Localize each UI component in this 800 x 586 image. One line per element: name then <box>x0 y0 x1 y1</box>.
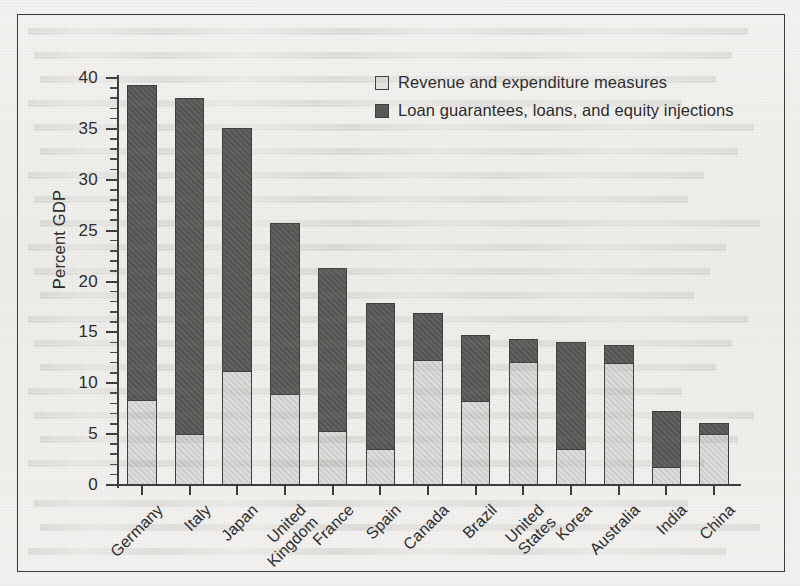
bar-china <box>699 78 729 485</box>
page-ghost-text-line <box>34 124 754 131</box>
y-axis-tick-major <box>106 179 117 181</box>
bar-segment-loan-guarantees <box>556 342 586 450</box>
page-ghost-text-line <box>28 316 748 323</box>
bar-segment-loan-guarantees <box>699 423 729 435</box>
x-axis-tick <box>332 486 334 495</box>
y-axis-tick-minor <box>110 403 117 405</box>
page-ghost-text-line <box>28 100 682 107</box>
page-ghost-text-line <box>40 76 716 83</box>
y-axis-tick-minor <box>110 443 117 445</box>
y-axis-tick-major <box>106 433 117 435</box>
page-ghost-text-line <box>28 172 704 179</box>
page-ghost-text-line <box>28 244 726 251</box>
page-ghost-text-line <box>28 28 748 35</box>
x-axis-tick <box>665 486 667 495</box>
y-axis-tick-minor <box>110 260 117 262</box>
page-ghost-text-line <box>40 148 738 155</box>
bar-korea <box>556 78 586 485</box>
page-ghost-text-line <box>34 412 754 419</box>
page-ghost-text-line <box>28 388 682 395</box>
y-axis-tick-label: 0 <box>58 475 98 495</box>
page-ghost-text-line <box>34 500 688 507</box>
page-ghost-text-line <box>40 220 760 227</box>
x-axis-tick <box>427 486 429 495</box>
y-axis-tick-major <box>106 331 117 333</box>
y-axis-tick-major <box>106 281 117 283</box>
page-ghost-text-line <box>34 268 710 275</box>
x-axis-tick <box>284 486 286 495</box>
y-axis-tick-minor <box>110 301 117 303</box>
y-axis-tick-minor <box>110 352 117 354</box>
y-axis-tick-minor <box>110 87 117 89</box>
page-ghost-text-line <box>28 460 704 467</box>
y-axis-tick-minor <box>110 240 117 242</box>
page-ghost-text-line <box>28 548 726 555</box>
bar-segment-loan-guarantees <box>604 345 634 365</box>
y-axis-tick-minor <box>110 474 117 476</box>
x-axis-tick <box>189 486 191 495</box>
bar-brazil <box>461 78 491 485</box>
y-axis-tick-minor <box>110 209 117 211</box>
y-axis-tick-minor <box>110 97 117 99</box>
x-axis-tick <box>618 486 620 495</box>
page-ghost-text-line <box>40 292 694 299</box>
bar-segment-loan-guarantees <box>127 85 157 401</box>
x-axis-tick <box>522 486 524 495</box>
y-axis-tick-minor <box>110 118 117 120</box>
y-axis-tick-minor <box>110 423 117 425</box>
bar-spain <box>366 78 396 485</box>
bar-france <box>318 78 348 485</box>
y-axis-tick-minor <box>110 169 117 171</box>
page-ghost-text-line <box>34 196 688 203</box>
x-axis-tick <box>570 486 572 495</box>
x-axis-tick <box>236 486 238 495</box>
y-axis-tick-major <box>106 484 117 486</box>
y-axis-tick-minor <box>110 311 117 313</box>
page-ghost-text-line <box>40 436 738 443</box>
scanned-page: Percent GDP 0510152025303540 GermanyItal… <box>0 0 800 586</box>
bar-italy <box>175 78 205 485</box>
page-ghost-text-line <box>40 364 716 371</box>
y-axis-tick-minor <box>110 158 117 160</box>
x-axis-tick <box>379 486 381 495</box>
bar-canada <box>413 78 443 485</box>
y-axis-tick-minor <box>110 138 117 140</box>
y-axis-tick-minor <box>110 108 117 110</box>
y-axis-tick-minor <box>110 453 117 455</box>
bar-australia <box>604 78 634 485</box>
y-axis-tick-major <box>106 230 117 232</box>
plot-area <box>118 78 738 485</box>
y-axis-tick-major <box>106 382 117 384</box>
page-ghost-text-line <box>34 340 732 347</box>
page-ghost-text-line <box>34 52 732 59</box>
bar-germany <box>127 78 157 485</box>
bar-segment-loan-guarantees <box>366 303 396 450</box>
x-axis-tick <box>141 486 143 495</box>
page-ghost-text-line <box>40 524 760 531</box>
bar-india <box>652 78 682 485</box>
y-axis-tick-minor <box>110 372 117 374</box>
y-axis-tick-minor <box>110 189 117 191</box>
bar-segment-revenue <box>652 467 682 485</box>
x-axis-tick <box>475 486 477 495</box>
x-axis-tick <box>713 486 715 495</box>
bar-united-states <box>509 78 539 485</box>
bar-united-kingdom <box>270 78 300 485</box>
bar-japan <box>222 78 252 485</box>
